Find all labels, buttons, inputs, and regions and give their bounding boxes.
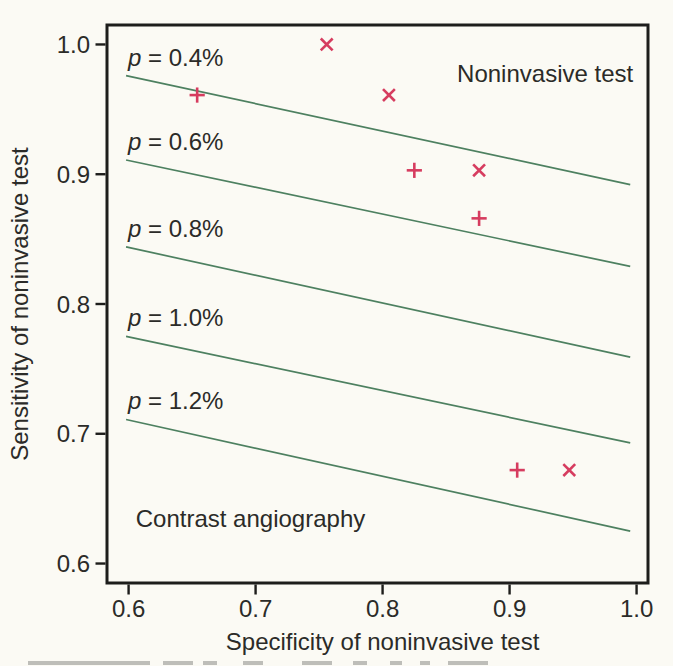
x-tick-label-4: 1.0 [620, 595, 653, 622]
y-axis-label: Sensitivity of noninvasive test [6, 147, 33, 461]
cropped-caption-fragment-8 [448, 661, 488, 665]
figure-background [0, 0, 673, 666]
figure: p = 0.4%p = 0.6%p = 0.8%p = 1.0%p = 1.2%… [0, 0, 673, 666]
cropped-caption-fragment-5 [353, 661, 367, 665]
y-tick-label-2: 0.8 [57, 291, 90, 318]
prevalence-line-label-0: p = 0.4% [127, 44, 223, 71]
x-tick-label-0: 0.6 [112, 595, 145, 622]
cropped-caption-fragment-6 [390, 661, 402, 665]
cropped-caption-fragment-1 [163, 661, 193, 665]
x-axis-label: Specificity of noninvasive test [226, 628, 540, 655]
scatter-chart: p = 0.4%p = 0.6%p = 0.8%p = 1.0%p = 1.2%… [0, 0, 673, 666]
y-tick-label-3: 0.9 [57, 161, 90, 188]
region-label-noninvasive-test: Noninvasive test [457, 60, 633, 87]
prevalence-line-label-1: p = 0.6% [127, 128, 223, 155]
cropped-caption-fragment-2 [203, 661, 217, 665]
cropped-caption-fragment-3 [243, 661, 263, 665]
x-tick-label-3: 0.9 [493, 595, 526, 622]
cropped-caption-fragment-4 [302, 661, 332, 665]
y-tick-label-0: 0.6 [57, 550, 90, 577]
cropped-caption-fragment-0 [28, 661, 150, 665]
cropped-caption-fragment-7 [420, 661, 430, 665]
x-tick-label-1: 0.7 [239, 595, 272, 622]
y-tick-label-4: 1.0 [57, 31, 90, 58]
prevalence-line-label-4: p = 1.2% [127, 387, 223, 414]
x-tick-label-2: 0.8 [366, 595, 399, 622]
prevalence-line-label-2: p = 0.8% [127, 215, 223, 242]
prevalence-line-label-3: p = 1.0% [127, 304, 223, 331]
y-tick-label-1: 0.7 [57, 420, 90, 447]
region-label-contrast-angiography: Contrast angiography [136, 505, 365, 532]
